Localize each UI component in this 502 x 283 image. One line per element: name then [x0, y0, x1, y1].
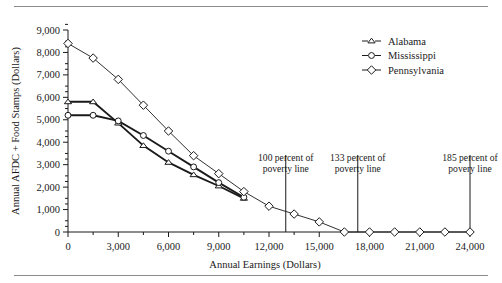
x-tick-label: 21,000	[405, 241, 434, 252]
data-point-marker	[216, 180, 222, 186]
x-tick-label: 0	[65, 241, 70, 252]
y-tick-label: 3,000	[36, 159, 60, 170]
x-tick-label: 6,000	[157, 241, 181, 252]
data-point-marker	[416, 228, 424, 236]
y-tick-label: 2,000	[36, 182, 60, 193]
data-point-marker	[90, 112, 96, 118]
legend-item-alabama: Alabama	[362, 36, 426, 47]
y-tick-label: 9,000	[36, 25, 60, 36]
data-point-marker	[65, 112, 71, 118]
annotation-line: poverty line	[263, 163, 309, 174]
data-point-marker	[140, 133, 146, 139]
y-tick-label: 6,000	[36, 92, 60, 103]
legend-label: Pennsylvania	[388, 65, 444, 76]
x-axis-title: Annual Earnings (Dollars)	[209, 259, 321, 271]
data-point-marker	[340, 228, 348, 236]
y-tick-label: 4,000	[36, 137, 60, 148]
y-axis-title: Annual AFDC + Food Stamps (Dollars)	[10, 47, 22, 215]
x-tick-label: 3,000	[106, 241, 130, 252]
legend-item-mississippi: Mississippi	[362, 50, 436, 61]
annotation-poverty-133: 133 percent ofpoverty line	[330, 152, 386, 174]
annotation-line: 100 percent of	[258, 152, 314, 163]
data-point-marker	[215, 169, 223, 177]
data-point-marker	[390, 228, 398, 236]
x-tick-label: 18,000	[355, 241, 384, 252]
data-point-marker	[265, 202, 273, 210]
legend-label: Alabama	[388, 36, 426, 47]
y-tick-label: 8,000	[36, 47, 60, 58]
legend-marker-circle	[369, 53, 375, 59]
x-tick-label: 12,000	[255, 241, 284, 252]
legend-item-pennsylvania: Pennsylvania	[362, 65, 444, 76]
data-point-marker	[466, 228, 474, 236]
figure: 01,0002,0003,0004,0005,0006,0007,0008,00…	[0, 0, 502, 283]
y-axis-tick-labels: 01,0002,0003,0004,0005,0006,0007,0008,00…	[36, 25, 60, 238]
x-tick-label: 9,000	[207, 241, 231, 252]
data-point-marker	[115, 118, 121, 124]
legend-marker-triangle	[368, 38, 375, 43]
data-point-marker	[441, 228, 449, 236]
annotation-line: 133 percent of	[330, 152, 386, 163]
annotation-line: poverty line	[335, 163, 381, 174]
chart-legend: AlabamaMississippiPennsylvania	[362, 36, 444, 76]
y-tick-label: 5,000	[36, 114, 60, 125]
y-tick-label: 1,000	[36, 204, 60, 215]
x-tick-label: 15,000	[305, 241, 334, 252]
y-tick-label: 0	[55, 227, 60, 238]
annotation-poverty-100: 100 percent ofpoverty line	[258, 152, 314, 174]
legend-marker-diamond	[367, 66, 375, 74]
data-point-marker	[191, 164, 197, 170]
annotation-line: povery line	[448, 163, 491, 174]
x-tick-label: 24,000	[456, 241, 485, 252]
data-point-marker	[290, 210, 298, 218]
annotation-poverty-185: 185 percent ofpovery line	[442, 152, 498, 174]
data-point-marker	[315, 218, 323, 226]
line-chart: 01,0002,0003,0004,0005,0006,0007,0008,00…	[0, 0, 502, 283]
legend-label: Mississippi	[388, 50, 436, 61]
annotation-line: 185 percent of	[442, 152, 498, 163]
annotation-layer: 100 percent ofpoverty line133 percent of…	[258, 152, 498, 174]
x-axis-tick-labels: 03,0006,0009,00012,00015,00018,00021,000…	[65, 241, 484, 252]
data-point-marker	[365, 228, 373, 236]
y-tick-label: 7,000	[36, 69, 60, 80]
data-point-marker	[166, 148, 172, 154]
